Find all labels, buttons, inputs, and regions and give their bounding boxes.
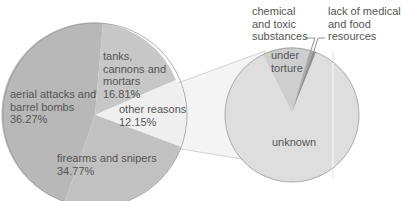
label-line: and toxic — [252, 18, 296, 30]
label-line: tanks, — [103, 50, 132, 62]
label-value: 36.27% — [10, 113, 47, 125]
label-value: 34.77% — [57, 165, 94, 177]
label-other-reasons: other reasons 12.15% — [119, 103, 186, 128]
label-line: under — [271, 49, 299, 61]
label-torture: under torture — [271, 49, 303, 74]
label-line: lack of medical — [328, 5, 401, 17]
label-line: chemical — [252, 5, 295, 17]
label-chemical: chemical and toxic substances — [252, 5, 308, 43]
label-line: barrel bombs — [10, 101, 74, 113]
label-medical: lack of medical and food resources — [328, 5, 401, 43]
label-line: cannons and — [103, 63, 166, 75]
label-line: and food — [328, 18, 371, 30]
label-firearms: firearms and snipers 34.77% — [57, 152, 157, 177]
label-line: firearms and snipers — [57, 152, 157, 164]
label-unknown: unknown — [272, 136, 316, 149]
label-value: 16.81% — [103, 88, 140, 100]
label-line: aerial attacks and — [10, 88, 96, 100]
label-line: resources — [328, 30, 376, 42]
label-line: substances — [252, 30, 308, 42]
label-value: 12.15% — [119, 116, 156, 128]
label-line: mortars — [103, 75, 140, 87]
label-tanks: tanks, cannons and mortars 16.81% — [103, 50, 166, 100]
leader-medical — [314, 38, 325, 51]
label-aerial: aerial attacks and barrel bombs 36.27% — [10, 88, 96, 126]
label-line: torture — [271, 62, 303, 74]
label-line: other reasons — [119, 103, 186, 115]
